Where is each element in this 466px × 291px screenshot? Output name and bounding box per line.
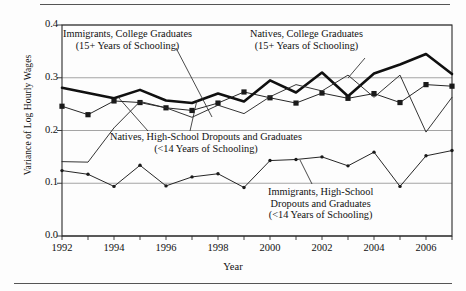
x-tick-label-1992: 1992 [52,242,73,253]
x-tick-label-1996: 1996 [156,242,177,253]
series-line-3 [62,151,452,188]
annotation-natives-college-line1: Natives, College Graduates [250,28,363,39]
annotation-natives-highschool: Natives, High-School Dropouts and Gradua… [110,131,302,154]
x-tick-label-2006: 2006 [416,242,437,253]
series-line-0 [62,54,452,103]
annotation-immigrants-college-line2: (15+ Years of Schooling) [63,40,192,52]
x-axis-tick-labels: 19921994199619982000200220042006 [0,238,466,256]
x-tick-label-2000: 2000 [260,242,281,253]
annotation-immigrants-highschool-line1: Immigrants, High-School [268,186,373,197]
annotation-immigrants-highschool-line2: Dropouts and Graduates [268,198,373,210]
y-axis-title: Variance of Log Hourly Wages [23,15,33,215]
figure-container: 0.00.10.20.30.4 199219941996199820002002… [0,0,466,291]
annotation-natives-college: Natives, College Graduates (15+ Years of… [250,28,363,51]
plot-area: 0.00.10.20.30.4 199219941996199820002002… [0,0,466,291]
annotation-immigrants-highschool-line3: (<14 Years of Schooling) [268,209,373,221]
annotation-immigrants-highschool: Immigrants, High-School Dropouts and Gra… [268,186,373,221]
annotation-natives-highschool-line1: Natives, High-School Dropouts and Gradua… [110,131,302,142]
x-tick-label-2004: 2004 [364,242,385,253]
x-tick-label-1994: 1994 [104,242,125,253]
annotation-natives-college-line2: (15+ Years of Schooling) [250,40,363,52]
x-tick-label-1998: 1998 [208,242,229,253]
annotation-immigrants-college-line1: Immigrants, College Graduates [63,28,192,39]
annotation-natives-highschool-line2: (<14 Years of Schooling) [110,143,302,155]
x-axis-title: Year [0,261,466,272]
annotation-immigrants-college: Immigrants, College Graduates (15+ Years… [63,28,192,51]
x-tick-label-2002: 2002 [312,242,333,253]
